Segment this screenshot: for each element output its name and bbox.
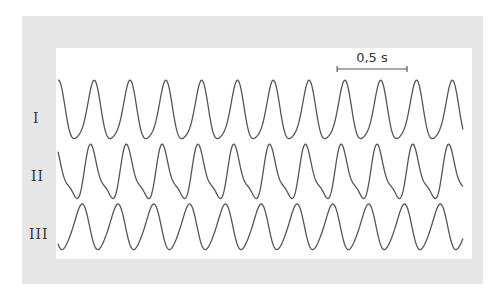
scale-bar <box>337 66 407 72</box>
chart-svg: 0,5 s <box>0 0 491 292</box>
scale-bar-label: 0,5 s <box>356 50 388 65</box>
trace-I <box>58 80 463 138</box>
trace-II <box>58 144 463 199</box>
trace-III <box>58 204 463 250</box>
traces <box>58 80 463 249</box>
